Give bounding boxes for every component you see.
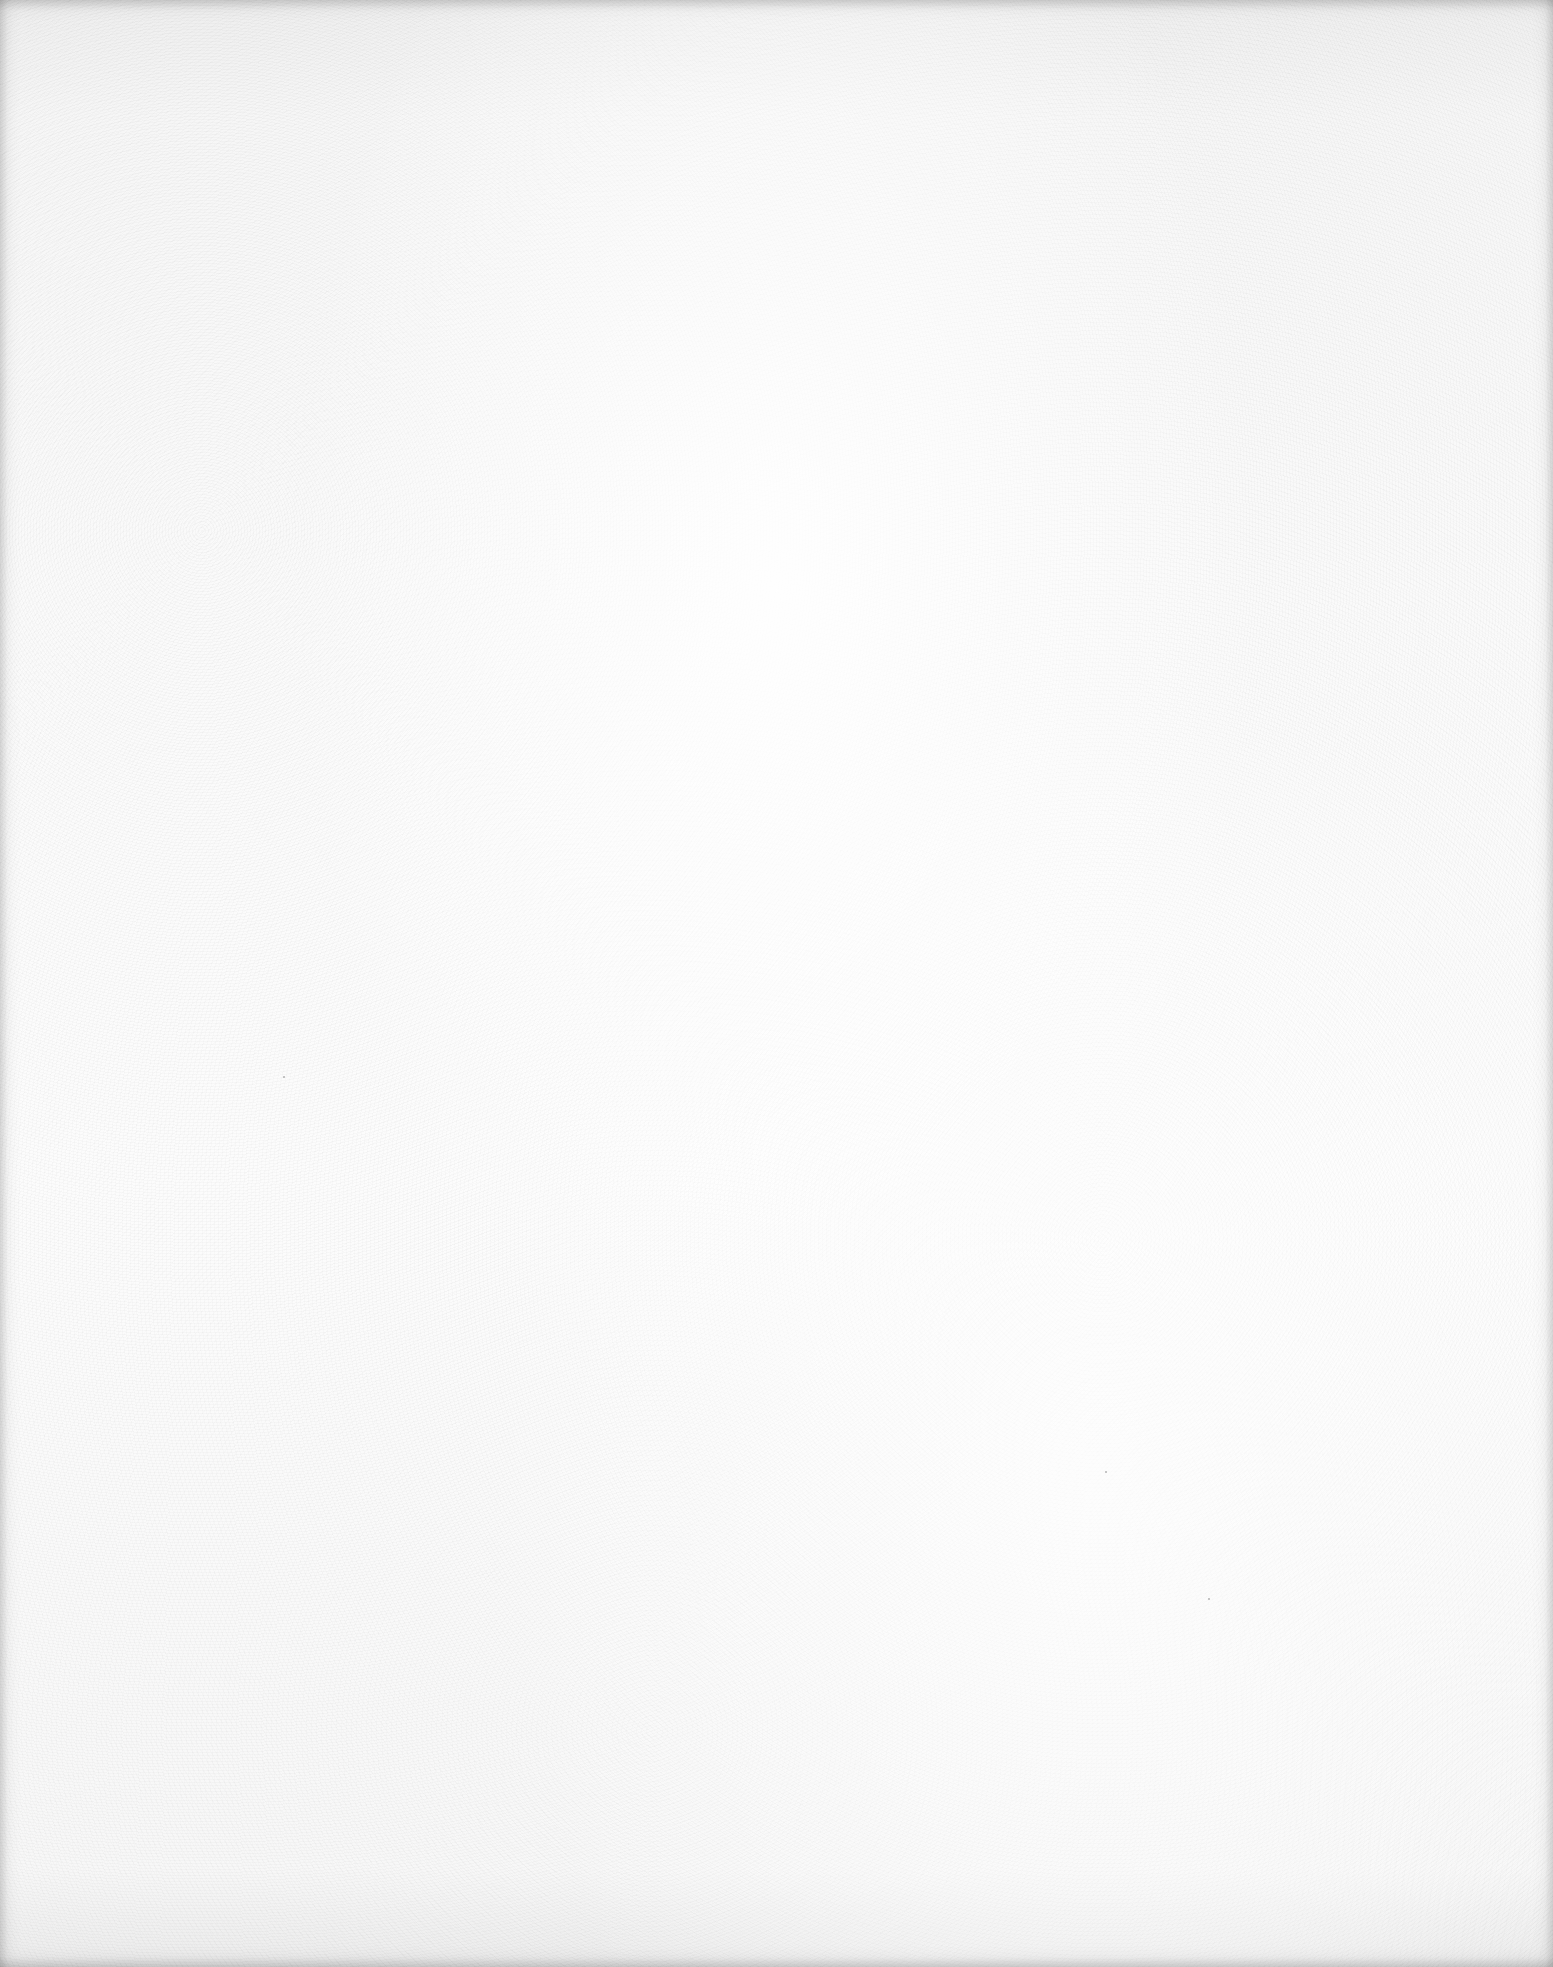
page-edge-right: [1545, 0, 1553, 1967]
paper-speck: [1208, 1598, 1210, 1600]
page-edge-left: [0, 0, 8, 1967]
page-edge-bottom: [0, 1957, 1553, 1967]
paper-speck: [1105, 1471, 1107, 1473]
paper-speck: [283, 1076, 285, 1078]
blank-page: [0, 0, 1553, 1967]
page-edge-top: [0, 0, 1553, 10]
